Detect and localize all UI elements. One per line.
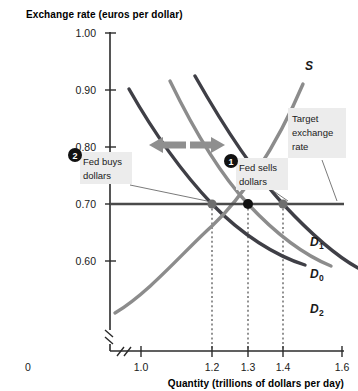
y-axis-title: Exchange rate (euros per dollar) (26, 9, 183, 20)
fed-buys-point (207, 199, 216, 208)
curve-label-s: S (305, 59, 313, 73)
axis-group (105, 32, 344, 356)
callout-fed-sells-line2: dollars (239, 176, 267, 187)
callout-fed-buys-line1: Fed buys (83, 156, 122, 167)
callout-target-line1: Target (292, 113, 319, 124)
x-tick-group: 0 1.0 1.2 1.3 1.4 1.6 (25, 346, 349, 373)
y-tick-label: 0.60 (76, 255, 97, 267)
curve-label-d0-text: D (310, 267, 319, 281)
x-tick-label: 1.6 (335, 361, 350, 373)
y-axis-break (105, 330, 113, 344)
badge-1-number: 1 (228, 157, 233, 167)
callout-fed-sells-dollars: Fed sells dollars 1 (224, 154, 288, 201)
x-tick-label: 1.2 (205, 361, 220, 373)
curve-label-d1: D 1 (310, 235, 324, 251)
x-tick-label: 1.4 (276, 361, 291, 373)
x-tick-label: 1.0 (134, 361, 149, 373)
curve-label-d0: D 0 (310, 267, 324, 283)
exchange-rate-chart: Exchange rate (euros per dollar) 1.00 0.… (0, 0, 358, 391)
x-tick-label: 0 (25, 361, 31, 373)
callout-target-line2: exchange (292, 127, 333, 138)
x-axis-title: Quantity (trillions of dollars per day) (168, 378, 344, 389)
y-tick-label: 1.00 (76, 27, 97, 39)
curve-label-d1-text: D (310, 235, 319, 249)
y-tick-label: 0.90 (76, 84, 97, 96)
curve-label-d1-sub: 1 (319, 241, 324, 251)
y-tick-label: 0.70 (76, 198, 97, 210)
x-tick-label: 1.3 (241, 361, 256, 373)
curve-label-d2-text: D (310, 302, 319, 316)
curve-label-d2: D 2 (310, 302, 324, 318)
curve-label-s-text: S (305, 59, 313, 73)
exchange-rate-figure: Exchange rate (euros per dollar) 1.00 0.… (0, 0, 358, 391)
equilibrium-point (243, 199, 253, 209)
callout-fed-buys-line2: dollars (83, 170, 111, 181)
badge-2-number: 2 (72, 151, 77, 161)
callout-target-line3: rate (292, 141, 308, 152)
callout-target-leader (322, 160, 337, 201)
curve-label-d0-sub: 0 (319, 273, 324, 283)
fed-sells-point (278, 199, 287, 208)
callout-fed-sells-line1: Fed sells (239, 162, 277, 173)
callout-target-exchange-rate: Target exchange rate (288, 108, 346, 201)
curve-label-d2-sub: 2 (319, 308, 324, 318)
